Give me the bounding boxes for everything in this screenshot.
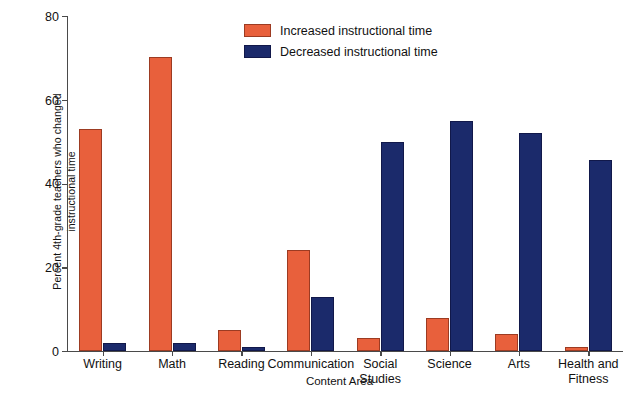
bar-group [276, 16, 345, 351]
x-tick-mark [450, 351, 451, 356]
y-tick-label-60: 60 [45, 94, 62, 108]
bar-group [137, 16, 206, 351]
bar-chart: Percent 4th-grade teachers who changed i… [0, 0, 639, 401]
bar-increased-math [149, 57, 172, 351]
y-tick-40: 40 [45, 175, 68, 193]
x-axis-label-line-1: Writing [83, 357, 122, 371]
y-tick-20: 20 [45, 258, 68, 276]
legend-label-decreased: Decreased instructional time [280, 45, 438, 59]
x-axis-label-line-1: Arts [508, 357, 530, 371]
bar-decreased-math [173, 343, 196, 351]
bar-group [346, 16, 415, 351]
x-axis-label-line-1: Social [363, 357, 397, 371]
x-tick-mark [588, 351, 589, 356]
bar-increased-health-and-fitness [565, 347, 588, 351]
legend: Increased instructional time Decreased i… [244, 22, 438, 64]
y-tick-label-80: 80 [45, 10, 62, 24]
bar-group [68, 16, 137, 351]
x-axis-line [67, 351, 623, 352]
bar-group [207, 16, 276, 351]
bar-increased-writing [79, 129, 102, 351]
bar-increased-arts [495, 334, 518, 351]
bar-decreased-communication [311, 297, 334, 351]
legend-item-decreased: Decreased instructional time [244, 43, 438, 60]
x-axis-label-line-1: Health and [558, 357, 618, 371]
x-tick-mark [241, 351, 242, 356]
bar-decreased-reading [242, 347, 265, 351]
x-tick-mark [172, 351, 173, 356]
y-tick-label-20: 20 [45, 261, 62, 275]
bar-decreased-social-studies [381, 142, 404, 351]
x-axis-label-line-1: Reading [218, 357, 265, 371]
x-axis-label-line-1: Science [427, 357, 471, 371]
x-tick-mark [311, 351, 312, 356]
bar-decreased-writing [103, 343, 126, 351]
bar-group [415, 16, 484, 351]
bar-increased-communication [287, 250, 310, 351]
bar-increased-reading [218, 330, 241, 351]
bar-increased-science [426, 318, 449, 352]
legend-item-increased: Increased instructional time [244, 22, 438, 39]
y-tick-60: 60 [45, 91, 68, 109]
y-tick-label-40: 40 [45, 177, 62, 191]
bar-decreased-science [450, 121, 473, 351]
x-tick-mark [103, 351, 104, 356]
x-axis-label-line-1: Math [158, 357, 186, 371]
bar-group [554, 16, 623, 351]
y-tick-80: 80 [45, 7, 68, 25]
bar-increased-social-studies [357, 338, 380, 351]
x-axis-title: Content Area [0, 375, 639, 387]
bar-decreased-health-and-fitness [589, 160, 612, 351]
x-tick-mark [519, 351, 520, 356]
bar-decreased-arts [519, 133, 542, 351]
legend-swatch-increased-icon [244, 24, 271, 37]
bar-group [484, 16, 553, 351]
y-tick-mark-0 [62, 351, 68, 352]
x-tick-mark [380, 351, 381, 356]
legend-swatch-decreased-icon [244, 45, 271, 58]
legend-label-increased: Increased instructional time [280, 24, 432, 38]
plot-area: 0 20 40 60 80 [68, 16, 623, 351]
